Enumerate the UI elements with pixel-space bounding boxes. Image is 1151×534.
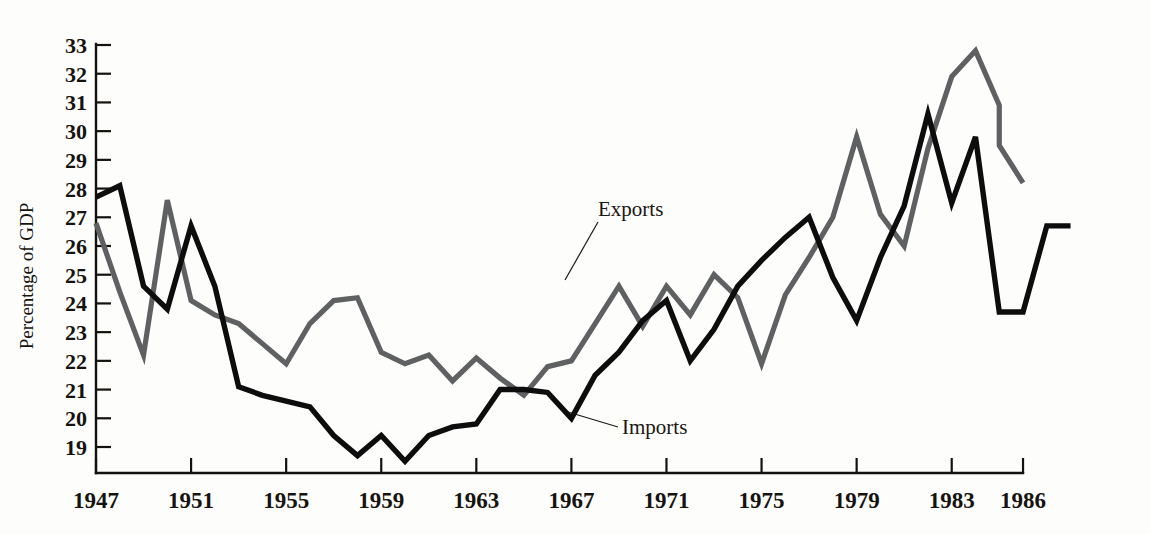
y-axis-tick-label: 28 [65,177,87,202]
y-axis-tick-label: 23 [65,320,87,345]
x-axis-tick-label: 1971 [643,488,689,513]
x-axis-tick-label: 1947 [73,488,119,513]
y-axis-tick-label: 22 [65,349,87,374]
series-line-exports [96,51,1023,396]
x-axis-tick-label: 1986 [1000,488,1046,513]
x-axis-tick-label: 1963 [453,488,499,513]
chart-page: 192021222324252627282930313233 194719511… [0,0,1151,534]
x-axis-tick-label: 1979 [834,488,880,513]
x-axis-tick-label: 1983 [929,488,975,513]
y-axis-tick-label: 20 [65,406,87,431]
y-axis-tick-label: 30 [65,119,87,144]
y-axis-tick-label: 29 [65,148,87,173]
y-axis-tick-label: 19 [65,435,87,460]
line-chart: 192021222324252627282930313233 194719511… [0,0,1151,534]
annotation-leader-exports [565,222,598,280]
series-label-imports: Imports [622,415,687,439]
annotation-leader-imports [568,412,618,427]
y-axis-tick-label: 26 [65,234,87,259]
x-axis-tick-label: 1955 [263,488,309,513]
y-axis-tick-label: 21 [65,378,87,403]
y-axis-tick-label: 33 [65,33,87,58]
x-axis-tick-label: 1975 [739,488,785,513]
x-axis: 1947195119551959196319671971197519791983… [73,458,1046,513]
y-axis-tick-label: 32 [65,62,87,87]
x-axis-tick-label: 1959 [358,488,404,513]
x-axis-tick-label: 1967 [548,488,594,513]
annotations-container: ExportsImports [565,197,687,439]
y-axis-title: Percentage of GDP [16,203,37,350]
y-axis-tick-label: 25 [65,263,87,288]
x-axis-tick-label: 1951 [168,488,214,513]
y-axis-tick-label: 24 [65,291,87,316]
y-axis-tick-label: 27 [65,205,87,230]
series-label-exports: Exports [598,197,663,221]
series-container [96,51,1071,462]
y-axis-tick-label: 31 [65,90,87,115]
